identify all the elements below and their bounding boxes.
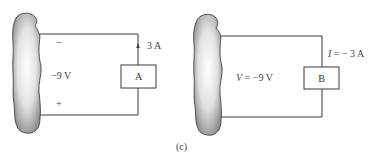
figure-label: (c) — [176, 142, 187, 152]
right-source-blob — [194, 14, 223, 135]
element-b-label: B — [304, 74, 339, 84]
current-value: = − 3 A — [331, 48, 364, 59]
left-bottom-wire — [40, 88, 138, 115]
left-top-wire — [40, 34, 138, 65]
right-voltage-label: V = −9 V — [236, 73, 273, 83]
right-current-label: I = − 3 A — [328, 49, 364, 59]
right-top-wire — [221, 36, 322, 67]
left-source-blob — [13, 13, 42, 133]
polarity-minus-label: − — [56, 38, 62, 48]
right-bottom-wire — [221, 89, 322, 117]
current-arrow-up-icon — [136, 43, 139, 48]
polarity-plus-label: + — [56, 99, 62, 109]
element-a-label: A — [121, 72, 156, 82]
left-current-label: 3 A — [147, 41, 161, 51]
voltage-value: = −9 V — [242, 72, 273, 83]
left-voltage-label: −9 V — [51, 71, 71, 81]
